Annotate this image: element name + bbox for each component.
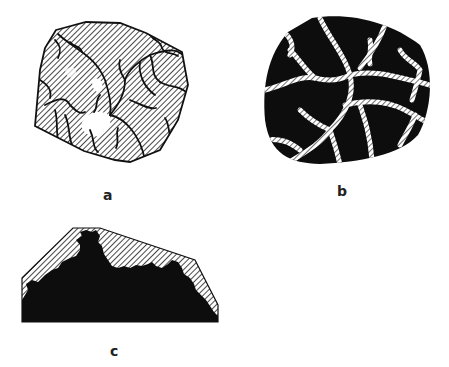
- panel-label-c: c: [110, 344, 118, 358]
- figure-canvas: [0, 0, 449, 367]
- panel-label-b: b: [337, 184, 347, 198]
- panel-c-section: [22, 228, 218, 322]
- panel-b-grain: [264, 16, 440, 165]
- panel-label-a: a: [103, 188, 112, 202]
- panel-a-grain: [35, 22, 188, 162]
